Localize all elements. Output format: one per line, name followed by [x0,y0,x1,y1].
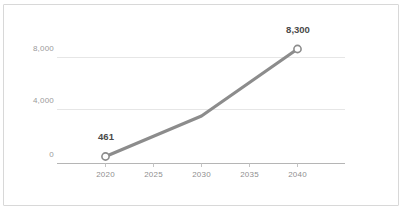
y-tick-label-0: 0 [30,150,54,159]
y-tick-label-8000: 8,000 [30,44,54,53]
data-label-2020: 461 [86,131,126,142]
x-tick-label-2030: 2030 [184,170,219,179]
data-point-marker-2040[interactable] [294,45,301,52]
x-tick-label-2025: 2025 [136,170,171,179]
chart-canvas [0,0,403,214]
x-tick-label-2020: 2020 [88,170,123,179]
plot-area: 8,000 4,000 0 2020 2025 2030 2035 2040 4… [0,0,403,214]
x-tick-label-2035: 2035 [232,170,267,179]
y-tick-label-4000: 4,000 [30,96,54,105]
data-line-series-1 [106,49,298,157]
x-tick-label-2040: 2040 [280,170,315,179]
chart-card: 8,000 4,000 0 2020 2025 2030 2035 2040 4… [0,0,403,214]
data-label-2040: 8,300 [273,24,323,35]
data-point-marker-2020[interactable] [102,153,109,160]
